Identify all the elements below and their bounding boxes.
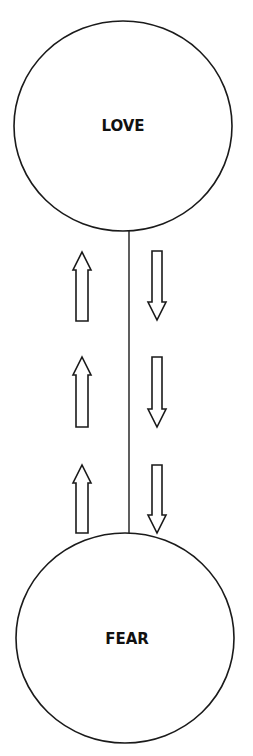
love-fear-diagram: LOVE FEAR <box>0 0 253 756</box>
love-label: LOVE <box>101 117 144 135</box>
down-arrow-icon <box>148 465 166 533</box>
up-arrow-icon <box>73 465 91 533</box>
love-node: LOVE <box>14 21 232 231</box>
down-arrows <box>148 251 166 533</box>
down-arrow-icon <box>148 251 166 320</box>
up-arrow-icon <box>73 252 91 321</box>
fear-label: FEAR <box>105 630 149 648</box>
up-arrow-icon <box>73 357 91 427</box>
fear-node: FEAR <box>16 533 234 743</box>
down-arrow-icon <box>148 357 166 427</box>
up-arrows <box>73 252 91 533</box>
